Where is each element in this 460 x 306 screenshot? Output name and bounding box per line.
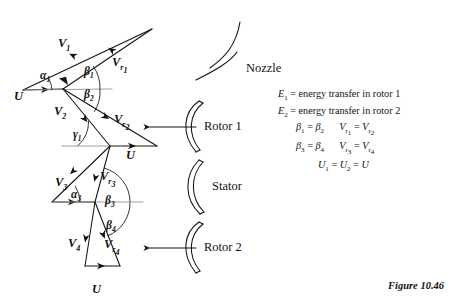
rotor1-blade-tip-top bbox=[199, 101, 203, 103]
figure-caption: Figure 10.46 bbox=[388, 281, 444, 292]
nozzle-blade-upper bbox=[210, 22, 240, 68]
label-U1: U bbox=[14, 90, 23, 103]
figure-container: V1 Vr1 U V2 Vr2 U V3 Vr3 V4 Vr4 U α1 β1 … bbox=[0, 0, 460, 306]
rotor2-blade-tip-top bbox=[199, 222, 203, 224]
label-V1: V1 bbox=[58, 37, 70, 53]
equation-E1: E1 = energy transfer in rotor 1 bbox=[278, 88, 400, 102]
label-beta3: β3 bbox=[105, 195, 115, 209]
label-V4: V4 bbox=[68, 237, 80, 253]
label-V2: V2 bbox=[54, 105, 66, 121]
label-Vr2: Vr2 bbox=[114, 113, 129, 131]
stator-blade-tip-top bbox=[199, 160, 203, 162]
label-Vr4: Vr4 bbox=[104, 238, 119, 256]
label-V3: V3 bbox=[55, 176, 67, 192]
label-alpha1: α1 bbox=[40, 70, 50, 84]
equation-block: E1 = energy transfer in rotor 1 E2 = ene… bbox=[278, 88, 400, 175]
rotor1-blade-tip-bottom bbox=[196, 150, 200, 152]
nozzle-blade-lower bbox=[196, 52, 237, 80]
stator-blade-tip-bottom bbox=[200, 212, 204, 214]
rotor2-blade-tip-bottom bbox=[196, 271, 200, 273]
label-Vr1: Vr1 bbox=[112, 56, 127, 74]
label-rotor-2: Rotor 2 bbox=[204, 241, 242, 254]
equation-u-equality: U1 = U2 = U bbox=[318, 159, 400, 173]
stator-blade-inner bbox=[193, 162, 204, 212]
label-stator: Stator bbox=[212, 180, 242, 193]
label-nozzle: Nozzle bbox=[246, 62, 281, 75]
equation-beta-pair-1: β1 = β2 Vr1 = Vr2 bbox=[296, 121, 400, 137]
outlet-triangle-stage2 bbox=[82, 202, 120, 269]
vector-Vr1 bbox=[63, 29, 152, 89]
stator-blade bbox=[188, 160, 204, 214]
arrowhead-Vr3 bbox=[91, 173, 99, 182]
label-gamma1: γ1 bbox=[73, 129, 82, 143]
label-rotor-1: Rotor 1 bbox=[204, 120, 242, 133]
label-U3: U bbox=[92, 283, 101, 296]
label-beta1: β1 bbox=[84, 66, 94, 80]
equation-beta-pair-2: β3 = β4 Vr3 = Vr4 bbox=[296, 140, 400, 156]
label-alpha3: α3 bbox=[71, 189, 81, 203]
equation-E2: E2 = energy transfer in rotor 2 bbox=[278, 105, 400, 119]
vector-Vr4 bbox=[95, 202, 120, 266]
arrowhead-V3 bbox=[68, 166, 78, 176]
label-Vr3: Vr3 bbox=[100, 170, 115, 188]
arc-beta1 bbox=[94, 67, 101, 89]
vector-V4 bbox=[85, 202, 95, 266]
label-beta2: β2 bbox=[84, 89, 94, 103]
label-U2: U bbox=[126, 149, 135, 162]
nozzle-blades bbox=[196, 22, 240, 80]
label-beta4: β4 bbox=[106, 220, 116, 234]
